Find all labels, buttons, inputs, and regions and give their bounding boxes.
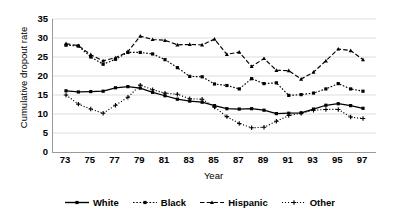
y-tick-label: 10 (28, 109, 48, 119)
data-point-marker (163, 58, 166, 61)
chart-legend: WhiteBlackHispanicOther (0, 192, 399, 212)
data-point-marker (75, 200, 78, 203)
y-tick-label: 0 (28, 147, 48, 157)
data-point-marker (138, 34, 142, 38)
x-tick-label: 89 (250, 154, 276, 165)
data-point-marker (89, 90, 92, 93)
data-point-marker (262, 82, 265, 85)
data-point-marker (139, 51, 142, 54)
y-tick-label: 35 (28, 14, 48, 24)
data-point-marker (262, 109, 265, 112)
y-tick-label: 5 (28, 128, 48, 138)
data-point-marker (324, 87, 327, 90)
x-axis-tick-labels: 73757779818385878991939597 (52, 154, 375, 168)
series-white (64, 85, 364, 115)
data-point-marker (324, 107, 328, 111)
x-tick-label: 77 (102, 154, 128, 165)
data-point-marker (188, 75, 191, 78)
data-point-marker (361, 107, 364, 110)
series-line (66, 87, 363, 114)
chart-container: Cumulative dropout rate 05101520253035 7… (0, 0, 399, 219)
data-point-marker (89, 53, 93, 57)
legend-item-white[interactable]: White (64, 197, 119, 208)
x-tick-label: 73 (52, 154, 78, 165)
y-tick-label: 20 (28, 71, 48, 81)
x-tick-label: 91 (275, 154, 301, 165)
x-tick-label: 81 (151, 154, 177, 165)
x-tick-label: 93 (300, 154, 326, 165)
data-point-marker (275, 112, 278, 115)
y-axis-tick-labels: 05101520253035 (26, 0, 48, 219)
series-line (66, 36, 363, 79)
data-point-marker (274, 119, 278, 123)
data-point-marker (312, 92, 315, 95)
x-tick-label: 79 (126, 154, 152, 165)
data-point-marker (225, 84, 228, 87)
data-point-marker (102, 63, 105, 66)
data-point-marker (126, 85, 129, 88)
data-point-marker (151, 52, 154, 55)
plot-area (52, 19, 376, 153)
data-point-marker (349, 104, 352, 107)
data-point-marker (275, 81, 278, 84)
legend-item-black[interactable]: Black (132, 197, 186, 208)
data-point-marker (249, 125, 253, 129)
legend-label: White (93, 197, 119, 208)
legend-swatch-other-icon (281, 198, 307, 207)
series-hispanic (64, 34, 365, 81)
data-point-marker (64, 89, 67, 92)
legend-label: Hispanic (228, 197, 268, 208)
x-tick-label: 87 (225, 154, 251, 165)
data-point-marker (337, 102, 340, 105)
x-tick-label: 85 (201, 154, 227, 165)
data-point-marker (262, 125, 266, 129)
data-point-marker (300, 93, 303, 96)
data-point-marker (250, 77, 253, 80)
x-tick-label: 75 (77, 154, 103, 165)
data-point-marker (349, 87, 352, 90)
data-point-marker (262, 56, 266, 60)
legend-item-other[interactable]: Other (281, 197, 335, 208)
data-point-marker (238, 87, 241, 90)
data-point-marker (64, 93, 68, 97)
legend-swatch-black-icon (132, 198, 158, 207)
data-point-marker (175, 92, 179, 96)
data-point-marker (349, 48, 353, 52)
data-point-marker (237, 121, 241, 125)
data-point-marker (361, 90, 364, 93)
legend-item-hispanic[interactable]: Hispanic (199, 197, 268, 208)
data-point-marker (114, 86, 117, 89)
data-point-marker (143, 200, 146, 203)
x-axis-title: Year (52, 170, 375, 181)
data-series-layer (53, 19, 376, 152)
data-point-marker (361, 116, 365, 120)
y-tick-label: 30 (28, 33, 48, 43)
data-point-marker (89, 107, 93, 111)
legend-label: Other (310, 197, 335, 208)
data-point-marker (163, 38, 167, 42)
data-point-marker (101, 111, 105, 115)
x-tick-label: 95 (324, 154, 350, 165)
data-point-marker (292, 200, 296, 204)
data-point-marker (102, 90, 105, 93)
data-point-marker (176, 98, 179, 101)
y-tick-label: 15 (28, 90, 48, 100)
data-point-marker (201, 75, 204, 78)
series-line (66, 45, 363, 95)
x-tick-label: 97 (349, 154, 375, 165)
data-point-marker (213, 37, 217, 41)
data-point-marker (324, 104, 327, 107)
data-point-marker (213, 82, 216, 85)
legend-label: Black (161, 197, 186, 208)
data-point-marker (287, 94, 290, 97)
data-point-marker (76, 102, 80, 106)
data-point-marker (176, 66, 179, 69)
data-point-marker (336, 107, 340, 111)
data-point-marker (337, 82, 340, 85)
data-point-marker (238, 107, 241, 110)
legend-swatch-hispanic-icon (199, 198, 225, 207)
data-point-marker (77, 90, 80, 93)
y-tick-label: 25 (28, 52, 48, 62)
data-point-marker (250, 107, 253, 110)
legend-swatch-white-icon (64, 198, 90, 207)
